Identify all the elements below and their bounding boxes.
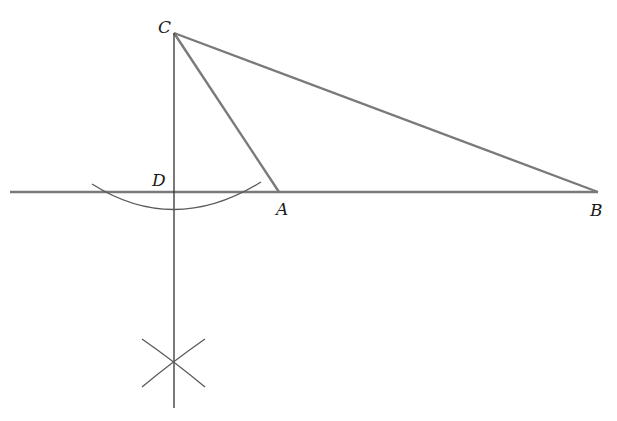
- label-d: D: [151, 170, 166, 190]
- label-b: B: [589, 200, 603, 220]
- label-a: A: [274, 199, 288, 219]
- segment-ca: [174, 33, 279, 192]
- geometry-diagram: C D A B: [0, 0, 617, 421]
- label-c: C: [158, 17, 171, 37]
- construction-arc-upper: [92, 182, 261, 210]
- segment-cb: [174, 33, 598, 192]
